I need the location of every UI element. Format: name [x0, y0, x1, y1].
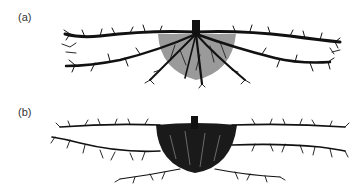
root-system-b-illustration — [0, 95, 364, 189]
panel-b: (b) — [0, 95, 364, 189]
root-system-a-illustration — [0, 0, 364, 95]
panel-a: (a) — [0, 0, 364, 95]
